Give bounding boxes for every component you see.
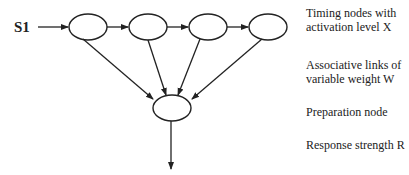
timing-network-diagram: S1 Timing nodes with activation level X … (0, 0, 409, 175)
legend-associative-links: Associative links of variable weight W (306, 58, 401, 86)
input-label-s1: S1 (14, 19, 30, 36)
legend-timing-nodes-line1: Timing nodes with (306, 6, 396, 20)
associative-link-1 (83, 39, 153, 99)
legend-response-strength: Response strength R (306, 138, 405, 152)
timing-node-3 (189, 14, 227, 40)
timing-node-2 (129, 14, 167, 40)
associative-link-2 (148, 40, 166, 95)
timing-node-4 (249, 14, 287, 40)
associative-link-3 (178, 39, 200, 95)
legend-preparation-node: Preparation node (306, 105, 388, 119)
legend-associative-links-line2: variable weight W (306, 72, 401, 86)
legend-response-strength-line1: Response strength R (306, 138, 405, 152)
legend-timing-nodes-line2: activation level X (306, 20, 396, 34)
legend-timing-nodes: Timing nodes with activation level X (306, 6, 396, 34)
legend-associative-links-line1: Associative links of (306, 58, 401, 72)
associative-link-4 (192, 39, 262, 99)
legend-preparation-node-line1: Preparation node (306, 105, 388, 119)
preparation-node (153, 95, 191, 121)
timing-node-1 (69, 14, 107, 40)
